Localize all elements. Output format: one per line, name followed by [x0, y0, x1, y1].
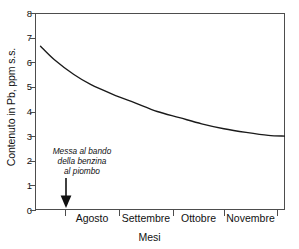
y-tick-mark-0: [30, 210, 36, 211]
x-tick-label-agosto: Agosto: [65, 212, 119, 225]
x-tick-label-ottobre: Ottobre: [173, 212, 224, 225]
x-tick-mark-5: [277, 210, 278, 216]
down-arrow-icon: [58, 178, 74, 208]
chart-figure: Contenuto in Pb, ppm s.s. 8 7 6 5 4 3 2 …: [0, 0, 299, 249]
ban-annotation: Messa al bando della benzina al piombo: [36, 146, 128, 177]
ban-annotation-line-1: Messa al bando: [36, 146, 128, 156]
x-tick-label-novembre: Novembre: [224, 212, 277, 225]
ban-annotation-line-3: al piombo: [36, 166, 128, 176]
x-axis-title: Mesi: [0, 231, 299, 243]
y-axis-title: Contenuto in Pb, ppm s.s.: [5, 12, 17, 202]
ban-annotation-line-2: della benzina: [36, 156, 128, 166]
x-tick-label-settembre: Settembre: [119, 212, 173, 225]
